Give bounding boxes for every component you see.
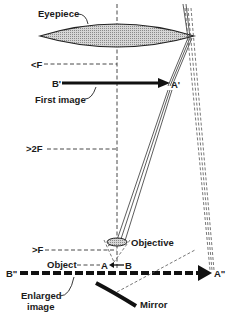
eyepiece-label: Eyepiece (38, 8, 79, 19)
virtual-ray (188, 8, 212, 270)
object-label: Object (47, 259, 77, 270)
first-image-leader (85, 87, 96, 99)
greater-f-label: >F (32, 244, 44, 255)
ray (124, 90, 172, 244)
enlarged-image-leader (60, 277, 74, 296)
first-image-b-label: B' (52, 78, 61, 89)
enlarged-image-label-line1: Enlarged (21, 290, 62, 301)
microscope-diagram: Eyepiece <F B' A' First image >2F Object… (0, 0, 240, 322)
mirror-label: Mirror (140, 299, 168, 310)
eyepiece-leader (78, 14, 88, 24)
objective-label: Objective (131, 237, 174, 248)
virtual-ray (191, 8, 214, 270)
enlarged-image-label-line2: image (27, 301, 54, 312)
objective-lens (107, 238, 127, 246)
first-image-arrowhead (158, 78, 170, 88)
ray (120, 90, 170, 242)
mirror (96, 283, 136, 306)
object-a-label: A (101, 260, 108, 271)
enlarged-b-label: B" (6, 268, 17, 279)
ray (117, 90, 168, 240)
greater-2f-label: >2F (26, 143, 43, 154)
enlarged-a-label: A" (214, 268, 225, 279)
ray (172, 38, 192, 86)
eyepiece-lens (40, 24, 194, 47)
object-arrowhead (109, 262, 114, 268)
virtual-ray (185, 8, 210, 270)
first-image-label: First image (35, 94, 86, 105)
less-than-f-label: <F (31, 59, 43, 70)
object-b-label: B (125, 260, 132, 271)
